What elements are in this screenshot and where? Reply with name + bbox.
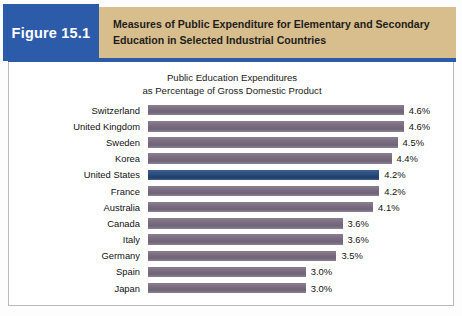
- value-label: 3.5%: [341, 250, 362, 261]
- figure-title-line-2: Education in Selected Industrial Countri…: [113, 33, 430, 48]
- category-label: Sweden: [9, 137, 148, 148]
- bar-chart-row: France4.2%: [9, 183, 455, 199]
- figure-title-line-1: Measures of Public Expenditure for Eleme…: [113, 17, 430, 32]
- bar-track: 3.0%: [148, 264, 455, 280]
- bar-track: 3.0%: [148, 280, 455, 296]
- value-label: 4.1%: [378, 202, 399, 213]
- bar-track: 4.2%: [148, 183, 455, 199]
- figure-header-band: Figure 15.1 Measures of Public Expenditu…: [8, 7, 456, 58]
- value-label: 4.5%: [403, 137, 424, 148]
- bar: [148, 121, 404, 132]
- category-label: United States: [9, 169, 148, 180]
- category-label: Australia: [9, 202, 148, 213]
- bar: [148, 202, 373, 213]
- bar-chart-row: Japan3.0%: [9, 280, 455, 296]
- value-label: 3.6%: [348, 234, 369, 245]
- bar: [148, 283, 306, 294]
- bar: [148, 251, 336, 262]
- value-label: 4.2%: [384, 186, 405, 197]
- bar-track: 3.6%: [148, 232, 455, 248]
- bar-track: 4.1%: [148, 199, 455, 215]
- value-label: 4.6%: [409, 105, 430, 116]
- category-label: United Kingdom: [9, 121, 148, 132]
- bar-chart-row: Switzerland4.6%: [9, 102, 455, 118]
- bar-track: 4.5%: [148, 134, 455, 150]
- bar-highlighted: [148, 170, 379, 181]
- bar: [148, 234, 343, 245]
- bar-chart-row: Germany3.5%: [9, 248, 455, 264]
- value-label: 4.6%: [409, 121, 430, 132]
- value-label: 3.6%: [348, 218, 369, 229]
- bar-chart-plot-area: Switzerland4.6%United Kingdom4.6%Sweden4…: [9, 102, 455, 298]
- figure-title: Measures of Public Expenditure for Eleme…: [99, 7, 456, 58]
- value-label: 3.0%: [311, 266, 332, 277]
- bar-track: 4.6%: [148, 118, 455, 134]
- bar: [148, 153, 392, 164]
- bar-chart-row: Italy3.6%: [9, 232, 455, 248]
- bar: [148, 137, 398, 148]
- value-label: 4.4%: [397, 153, 418, 164]
- bar-track: 3.5%: [148, 248, 455, 264]
- chart-title: Public Education Expenditures as Percent…: [9, 71, 455, 97]
- category-label: Italy: [9, 234, 148, 245]
- bar-chart-row: Australia4.1%: [9, 199, 455, 215]
- bar-track: 4.4%: [148, 151, 455, 167]
- category-label: Switzerland: [9, 105, 148, 116]
- bar-chart-row: Canada3.6%: [9, 215, 455, 231]
- bar: [148, 218, 343, 229]
- bar-track: 3.6%: [148, 215, 455, 231]
- category-label: Canada: [9, 218, 148, 229]
- bar-chart-row: Sweden4.5%: [9, 134, 455, 150]
- figure-title-text: Measures of Public Expenditure for Eleme…: [113, 17, 430, 47]
- bar-chart-row: United States4.2%: [9, 167, 455, 183]
- bar-chart-row: Korea4.4%: [9, 151, 455, 167]
- figure-container: Figure 15.1 Measures of Public Expenditu…: [0, 0, 462, 316]
- chart-panel: Public Education Expenditures as Percent…: [8, 62, 454, 306]
- figure-number-tag: Figure 15.1: [3, 4, 99, 61]
- category-label: France: [9, 186, 148, 197]
- bar: [148, 105, 404, 116]
- category-label: Germany: [9, 250, 148, 261]
- bar-chart-row: Spain3.0%: [9, 264, 455, 280]
- chart-title-line-1: Public Education Expenditures: [9, 71, 455, 84]
- chart-title-line-2: as Percentage of Gross Domestic Product: [9, 84, 455, 97]
- bar: [148, 267, 306, 278]
- category-label: Korea: [9, 153, 148, 164]
- bar: [148, 186, 379, 197]
- value-label: 3.0%: [311, 283, 332, 294]
- bar-track: 4.2%: [148, 167, 455, 183]
- value-label: 4.2%: [384, 169, 405, 180]
- category-label: Japan: [9, 283, 148, 294]
- category-label: Spain: [9, 266, 148, 277]
- bar-chart-row: United Kingdom4.6%: [9, 118, 455, 134]
- bar-track: 4.6%: [148, 102, 455, 118]
